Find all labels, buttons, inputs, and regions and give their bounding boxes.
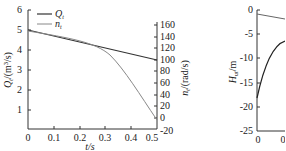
y-tick: 2 [17, 84, 22, 95]
x-axis-label: t/s [85, 141, 95, 151]
x-tick: 0 [256, 134, 261, 145]
y-tick: -10 [240, 52, 253, 63]
y2-tick: 160 [160, 19, 175, 30]
y-tick: 3 [17, 64, 22, 75]
y-tick: 5 [17, 24, 22, 35]
y2-tick: 60 [160, 77, 170, 88]
y-tick: -20 [240, 101, 253, 112]
y-tick: 6 [17, 4, 22, 15]
y2-tick: 0 [160, 112, 165, 123]
chart-2: 0 -5 -10 -15 -20 -25 0 0 Hut/m [227, 4, 285, 145]
x-tick: 0.4 [125, 132, 138, 143]
y-tick: 0 [248, 4, 253, 15]
y-tick: 4 [17, 44, 22, 55]
y2-tick: 20 [160, 100, 170, 111]
series-lower-line [257, 41, 285, 98]
x-tick: 0 [26, 132, 31, 143]
chart-canvas: 6 5 4 3 2 1 0 0.1 0.2 0.3 0.4 0.5 160 14… [0, 0, 285, 151]
y2-axis-label: nt/(rad/s) [179, 60, 191, 96]
y2-tick: 40 [160, 89, 170, 100]
y2-tick: 80 [160, 65, 170, 76]
y-tick: 1 [17, 104, 22, 115]
y2-tick: 100 [160, 54, 175, 65]
y-axis-label: Hut/m [227, 61, 239, 85]
y2-tick: 140 [160, 31, 175, 42]
x-tick: 0.1 [48, 132, 61, 143]
y2-tick: 120 [160, 42, 175, 53]
y-tick: -5 [245, 28, 253, 39]
y2-tick: -20 [160, 125, 173, 136]
series-upper-line [257, 14, 285, 19]
y-tick: -25 [240, 125, 253, 136]
series-n-line [28, 31, 157, 120]
legend-n-label: nt [55, 18, 62, 30]
x-tick: 0.3 [99, 132, 112, 143]
x-tick: 0.5 [146, 132, 159, 143]
y-axis-label: Qt/(m³/s) [2, 52, 14, 88]
y-tick: -15 [240, 77, 253, 88]
chart-1: 6 5 4 3 2 1 0 0.1 0.2 0.3 0.4 0.5 160 14… [2, 4, 191, 151]
x-tick: 0 [281, 134, 286, 145]
